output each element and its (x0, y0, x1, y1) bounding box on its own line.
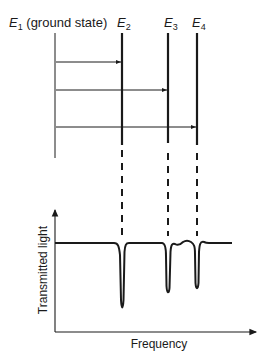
energy-level-diagram: E1 (ground state) E2 E3 E4 Transmitted l… (0, 0, 272, 362)
level-label-e4: E4 (192, 15, 206, 32)
y-axis-label: Transmitted light (36, 225, 50, 314)
level-label-e3: E3 (164, 15, 178, 32)
x-axis-label: Frequency (131, 337, 188, 351)
level-label-e2: E2 (117, 15, 131, 32)
level-label-e1: E1 (ground state) (9, 15, 107, 32)
transmission-spectrum-curve (55, 241, 232, 308)
